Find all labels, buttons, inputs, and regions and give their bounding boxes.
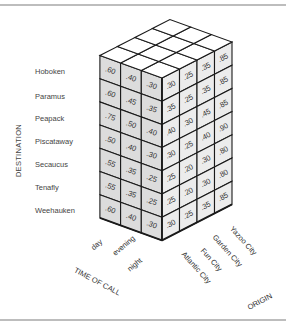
- time-of-call-axis-title: TIME OF CALL: [72, 266, 121, 298]
- time-of-call-label: evening: [111, 234, 137, 258]
- origin-axis-title: ORIGIN: [246, 291, 274, 311]
- time-of-call-label: day: [89, 237, 104, 252]
- data-cube-diagram: .60.40.30.60.45.35.75.50.40.50.40.30.55.…: [0, 0, 286, 323]
- bottom-rule: [0, 319, 286, 321]
- time-of-call-label: night: [126, 255, 145, 273]
